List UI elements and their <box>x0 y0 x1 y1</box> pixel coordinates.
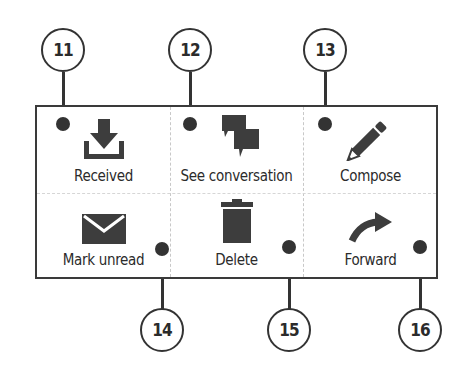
mark-unread-button[interactable]: Mark unread <box>37 199 170 269</box>
callout-dot-16 <box>413 240 427 254</box>
callout-13: 13 <box>303 28 347 72</box>
forward-button[interactable]: Forward <box>303 199 438 269</box>
delete-button[interactable]: Delete <box>170 199 303 269</box>
callout-12: 12 <box>168 28 212 72</box>
callout-16: 16 <box>398 308 442 352</box>
delete-label: Delete <box>215 251 258 269</box>
callout-11: 11 <box>41 28 85 72</box>
callout-15: 15 <box>267 308 311 352</box>
trash-icon <box>219 199 255 245</box>
forward-arrow-icon <box>346 199 396 245</box>
chat-bubbles-icon <box>212 115 262 161</box>
pencil-icon <box>346 115 396 161</box>
download-tray-icon <box>79 115 129 161</box>
callout-dot-11 <box>56 117 70 131</box>
envelope-icon <box>81 199 127 245</box>
message-action-menu: Received See conversation Compose <box>35 105 438 279</box>
callout-dot-13 <box>318 117 332 131</box>
callout-dot-12 <box>183 117 197 131</box>
callout-dot-14 <box>155 242 169 256</box>
forward-label: Forward <box>344 251 396 269</box>
compose-label: Compose <box>340 167 401 185</box>
mark-unread-label: Mark unread <box>63 251 145 269</box>
callout-dot-15 <box>282 240 296 254</box>
see-conversation-label: See conversation <box>181 167 293 185</box>
row-divider <box>37 193 436 194</box>
received-label: Received <box>74 167 133 185</box>
callout-14: 14 <box>140 308 184 352</box>
